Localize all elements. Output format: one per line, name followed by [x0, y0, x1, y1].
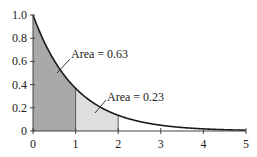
- exponential-area-chart: 01234500.20.40.60.81.0 Area = 0.63Area =…: [0, 0, 257, 157]
- x-tick-label: 0: [30, 137, 36, 151]
- y-tick-label: 1.0: [12, 8, 27, 22]
- x-tick-label: 5: [243, 137, 249, 151]
- area-label-1: Area = 0.63: [71, 47, 128, 61]
- y-tick-label: 0.8: [12, 31, 27, 45]
- y-tick-label: 0.6: [12, 54, 27, 68]
- area-label-2: Area = 0.23: [107, 90, 164, 104]
- y-tick-label: 0.4: [12, 78, 27, 92]
- y-tick-label: 0.2: [12, 101, 27, 115]
- x-tick-label: 2: [115, 137, 121, 151]
- y-tick-label: 0: [21, 124, 27, 138]
- chart-container: 01234500.20.40.60.81.0 Area = 0.63Area =…: [0, 0, 257, 157]
- annotation-leader-1: [57, 59, 70, 73]
- x-tick-label: 1: [73, 137, 79, 151]
- x-tick-label: 3: [158, 137, 164, 151]
- x-tick-label: 4: [200, 137, 206, 151]
